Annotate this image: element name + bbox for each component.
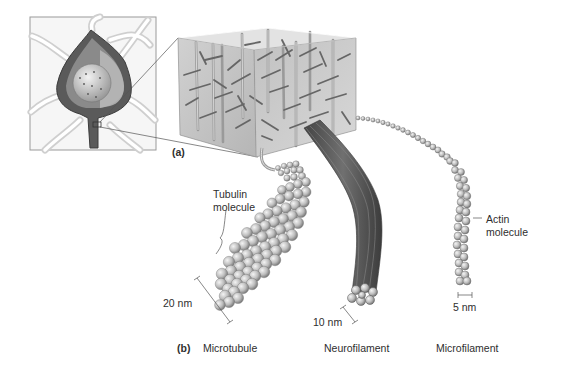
microfilament-scale-label: 5 nm (453, 301, 476, 313)
cytoskeleton-diagram (0, 0, 569, 372)
neurofilament-scale-label: 10 nm (313, 316, 342, 328)
actin-label-line1: Actin (486, 213, 509, 225)
tubulin-label-line2: molecule (213, 201, 255, 213)
microtubule (194, 148, 311, 324)
neurofilament (304, 120, 382, 324)
neurofilament-caption: Neurofilament (324, 342, 389, 354)
microtubule-scale-label: 20 nm (163, 297, 192, 309)
panel-a-label: (a) (172, 146, 185, 158)
microtubule-caption: Microtubule (203, 342, 257, 354)
neuron-inset (30, 17, 156, 150)
actin-label-line2: molecule (486, 226, 528, 238)
microfilament-caption: Microfilament (436, 342, 498, 354)
panel-b-label: (b) (177, 342, 190, 354)
tubulin-label-line1: Tubulin (213, 188, 247, 200)
